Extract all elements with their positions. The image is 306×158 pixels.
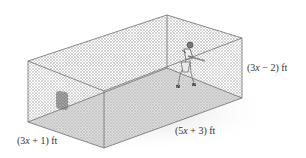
height-label: (3x − 2) ft bbox=[247, 62, 287, 73]
width-label: (3x + 1) ft bbox=[17, 135, 57, 146]
width-expr-post: + 1) ft bbox=[30, 135, 58, 146]
height-expr-post: − 2) ft bbox=[260, 62, 288, 73]
length-label: (5x + 3) ft bbox=[175, 125, 215, 136]
length-expr-post: + 3) ft bbox=[188, 125, 216, 136]
